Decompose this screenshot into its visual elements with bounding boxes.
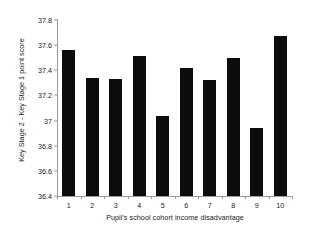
x-tick-mark <box>269 196 270 199</box>
y-tick-label: 37.2 <box>38 91 52 100</box>
y-tick-label: 37 <box>44 116 52 125</box>
bar <box>62 50 75 196</box>
y-tick-mark <box>54 95 57 96</box>
bar <box>227 58 240 196</box>
x-tick-label: 1 <box>67 201 71 210</box>
x-tick-mark <box>175 196 176 199</box>
x-tick-mark <box>57 196 58 199</box>
x-tick-mark <box>292 196 293 199</box>
y-tick-label: 36.4 <box>38 192 52 201</box>
x-tick-label: 9 <box>255 201 259 210</box>
x-tick-label: 5 <box>161 201 165 210</box>
x-tick-label: 4 <box>137 201 141 210</box>
x-tick-mark <box>222 196 223 199</box>
x-tick-label: 2 <box>90 201 94 210</box>
x-tick-mark <box>128 196 129 199</box>
bar <box>203 80 216 196</box>
x-tick-label: 7 <box>208 201 212 210</box>
y-tick-label: 37.6 <box>38 41 52 50</box>
y-tick-mark <box>54 120 57 121</box>
bar <box>109 79 122 196</box>
bar <box>180 68 193 196</box>
y-tick-mark <box>54 70 57 71</box>
y-tick-label: 36.8 <box>38 141 52 150</box>
bar <box>133 56 146 196</box>
bar <box>86 78 99 196</box>
x-tick-mark <box>104 196 105 199</box>
y-axis-title: Key Stage 2 - Key Stage 1 point score <box>14 2 28 198</box>
x-tick-mark <box>198 196 199 199</box>
y-tick-label: 37.4 <box>38 66 52 75</box>
x-tick-label: 8 <box>231 201 235 210</box>
y-tick-mark <box>54 45 57 46</box>
plot-area: 37.837.637.437.23736.836.636.4 123456789… <box>57 20 292 196</box>
x-tick-label: 6 <box>184 201 188 210</box>
y-tick-mark <box>54 170 57 171</box>
bar <box>250 128 263 196</box>
y-tick-mark <box>54 145 57 146</box>
x-axis-title: Pupil's school cohort income disadvantag… <box>57 213 293 222</box>
x-tick-label: 3 <box>114 201 118 210</box>
bar <box>156 116 169 196</box>
x-tick-mark <box>151 196 152 199</box>
bar-chart: Key Stage 2 - Key Stage 1 point score 37… <box>0 0 310 235</box>
x-tick-label: 10 <box>276 201 284 210</box>
x-tick-mark <box>81 196 82 199</box>
y-tick-mark <box>54 20 57 21</box>
x-tick-mark <box>245 196 246 199</box>
y-tick-label: 36.6 <box>38 166 52 175</box>
y-tick-label: 37.8 <box>38 16 52 25</box>
bar <box>274 36 287 196</box>
